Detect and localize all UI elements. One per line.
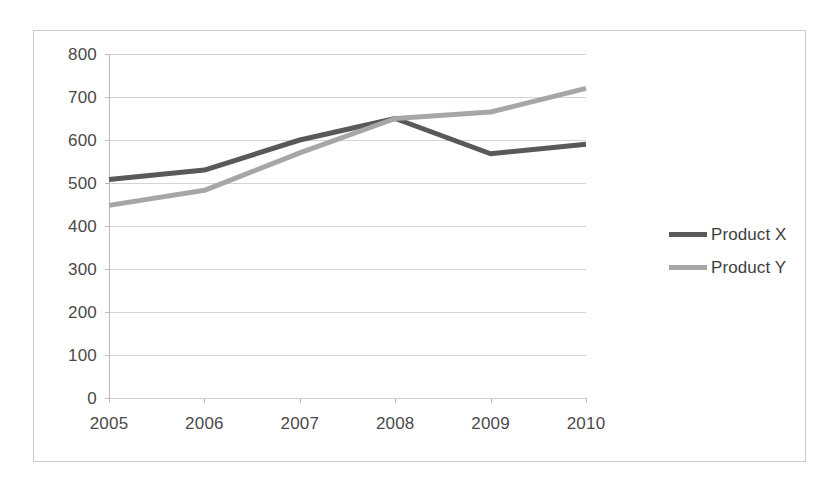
- y-tick-label-100: 100: [37, 347, 97, 364]
- series-lines: [109, 54, 586, 398]
- x-tick-mark-2010: [586, 398, 587, 403]
- legend-label-product-y: Product Y: [711, 258, 786, 278]
- x-tick-label-2006: 2006: [185, 415, 224, 432]
- x-tick-mark-2009: [491, 398, 492, 403]
- legend-item-product-x: Product X: [669, 218, 804, 251]
- y-tick-label-600: 600: [37, 132, 97, 149]
- x-tick-label-2007: 2007: [280, 415, 319, 432]
- y-tick-label-0: 0: [37, 390, 97, 407]
- y-tick-label-200: 200: [37, 304, 97, 321]
- y-axis-tick-labels: 8007006005004003002001000: [34, 54, 97, 398]
- y-tick-label-700: 700: [37, 89, 97, 106]
- y-tick-label-800: 800: [37, 46, 97, 63]
- y-tick-label-400: 400: [37, 218, 97, 235]
- x-tick-mark-2006: [204, 398, 205, 403]
- x-tick-mark-2007: [300, 398, 301, 403]
- series-line-product-y: [109, 88, 586, 205]
- chart-legend: Product X Product Y: [669, 218, 804, 284]
- chart-figure: 8007006005004003002001000 20052006200720…: [33, 30, 806, 462]
- x-tick-label-2010: 2010: [567, 415, 606, 432]
- x-axis-tick-labels: 200520062007200820092010: [109, 415, 586, 439]
- y-tick-label-500: 500: [37, 175, 97, 192]
- x-tick-mark-2005: [109, 398, 110, 403]
- x-tick-label-2008: 2008: [376, 415, 415, 432]
- y-tick-label-300: 300: [37, 261, 97, 278]
- x-tick-label-2005: 2005: [90, 415, 129, 432]
- legend-label-product-x: Product X: [711, 225, 787, 245]
- series-line-product-x: [109, 119, 586, 180]
- plot-area: [109, 54, 586, 398]
- x-tick-label-2009: 2009: [471, 415, 510, 432]
- x-axis-tick-marks: [109, 398, 586, 404]
- x-tick-mark-2008: [395, 398, 396, 403]
- legend-swatch-product-y: [669, 265, 707, 270]
- legend-item-product-y: Product Y: [669, 251, 804, 284]
- legend-swatch-product-x: [669, 232, 707, 237]
